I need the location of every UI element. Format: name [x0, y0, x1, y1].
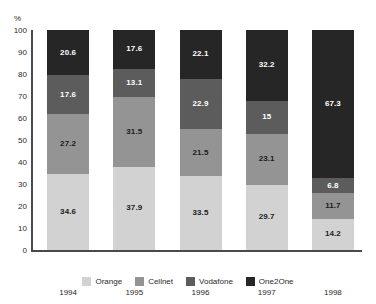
bar-segment[interactable]: 22.1	[180, 30, 222, 79]
y-axis-line	[31, 30, 33, 252]
bar-segment-value-label: 21.5	[193, 149, 209, 157]
bar-segment[interactable]: 29.7	[246, 185, 288, 250]
bar-segment[interactable]: 20.6	[47, 30, 89, 75]
y-axis-tick-label: 50	[1, 136, 27, 145]
legend-swatch-icon	[82, 277, 91, 286]
bar-group[interactable]: 33.521.522.922.1	[180, 30, 222, 250]
bar-segment[interactable]: 17.6	[113, 30, 155, 69]
legend-item[interactable]: Orange	[82, 277, 122, 286]
bar-group[interactable]: 34.627.217.620.6	[47, 30, 89, 250]
bar-segment-value-label: 11.7	[325, 202, 341, 210]
y-axis-tick-label: 70	[1, 92, 27, 101]
y-axis-tick-label: 40	[1, 158, 27, 167]
legend-label: One2One	[259, 277, 294, 286]
bar-segment[interactable]: 15	[246, 101, 288, 134]
y-axis-tick-label: 60	[1, 114, 27, 123]
bar-segment-value-label: 27.2	[60, 140, 76, 148]
bar-segment[interactable]: 23.1	[246, 134, 288, 185]
bar-segment-value-label: 22.1	[193, 50, 209, 58]
bar-segment[interactable]: 21.5	[180, 129, 222, 176]
bar-segment-value-label: 23.1	[259, 155, 275, 163]
bar-segment[interactable]: 14.2	[312, 219, 354, 250]
bar-segment-value-label: 67.3	[325, 100, 341, 108]
bar-segment[interactable]: 6.8	[312, 178, 354, 193]
bar-segment[interactable]: 32.2	[246, 30, 288, 101]
bar-segment-value-label: 17.6	[126, 45, 142, 53]
y-axis-tick-label: 90	[1, 48, 27, 57]
bar-segment-value-label: 37.9	[126, 204, 142, 212]
bar-segment-value-label: 31.5	[126, 128, 142, 136]
stacked-bar-chart: % 1009080706050403020100 34.627.217.620.…	[0, 0, 376, 304]
y-axis-tick-label: 30	[1, 180, 27, 189]
x-axis-line	[31, 250, 362, 252]
bar-segment-value-label: 32.2	[259, 61, 275, 69]
bar-segment-value-label: 20.6	[60, 49, 76, 57]
x-axis-tick-label: 1995	[104, 288, 164, 297]
legend: OrangeCellnetVodafoneOne2One	[0, 277, 376, 286]
bar-segment-value-label: 6.8	[327, 182, 338, 190]
plot-area: 1009080706050403020100 34.627.217.620.63…	[31, 30, 362, 252]
bar-group[interactable]: 37.931.513.117.6	[113, 30, 155, 250]
legend-item[interactable]: Cellnet	[135, 277, 173, 286]
y-axis-tick-label: 80	[1, 70, 27, 79]
legend-item[interactable]: Vodafone	[186, 277, 233, 286]
bar-segment-value-label: 17.6	[60, 91, 76, 99]
y-axis-unit-label: %	[14, 14, 21, 23]
bar-segment[interactable]: 31.5	[113, 97, 155, 166]
x-axis-tick-label: 1996	[171, 288, 231, 297]
bar-segment[interactable]: 27.2	[47, 114, 89, 174]
bar-segment-value-label: 33.5	[193, 209, 209, 217]
legend-label: Cellnet	[148, 277, 173, 286]
bar-segment[interactable]: 33.5	[180, 176, 222, 250]
bar-group[interactable]: 14.211.76.867.3	[312, 30, 354, 250]
bar-segment[interactable]: 37.9	[113, 167, 155, 250]
bar-segment[interactable]: 22.9	[180, 79, 222, 129]
x-axis-tick-label: 1994	[38, 288, 98, 297]
bar-segment-value-label: 22.9	[193, 100, 209, 108]
legend-swatch-icon	[186, 277, 195, 286]
bar-segment[interactable]: 17.6	[47, 75, 89, 114]
legend-label: Orange	[95, 277, 122, 286]
bar-segment[interactable]: 34.6	[47, 174, 89, 250]
y-axis-tick-label: 100	[1, 26, 27, 35]
bar-segment-value-label: 13.1	[126, 79, 142, 87]
y-axis-tick-label: 0	[1, 246, 27, 255]
legend-swatch-icon	[246, 277, 255, 286]
bar-segment-value-label: 29.7	[259, 213, 275, 221]
legend-label: Vodafone	[199, 277, 233, 286]
bar-segment[interactable]: 13.1	[113, 69, 155, 98]
x-axis-tick-label: 1998	[303, 288, 363, 297]
bar-segment-value-label: 15	[262, 113, 271, 121]
x-axis-tick-label: 1997	[237, 288, 297, 297]
bar-segment-value-label: 14.2	[325, 230, 341, 238]
y-axis-tick-label: 20	[1, 202, 27, 211]
bar-segment[interactable]: 11.7	[312, 193, 354, 219]
y-axis-tick-label: 10	[1, 224, 27, 233]
bar-segment[interactable]: 67.3	[312, 30, 354, 178]
legend-swatch-icon	[135, 277, 144, 286]
legend-item[interactable]: One2One	[246, 277, 294, 286]
bar-group[interactable]: 29.723.11532.2	[246, 30, 288, 250]
bar-segment-value-label: 34.6	[60, 208, 76, 216]
